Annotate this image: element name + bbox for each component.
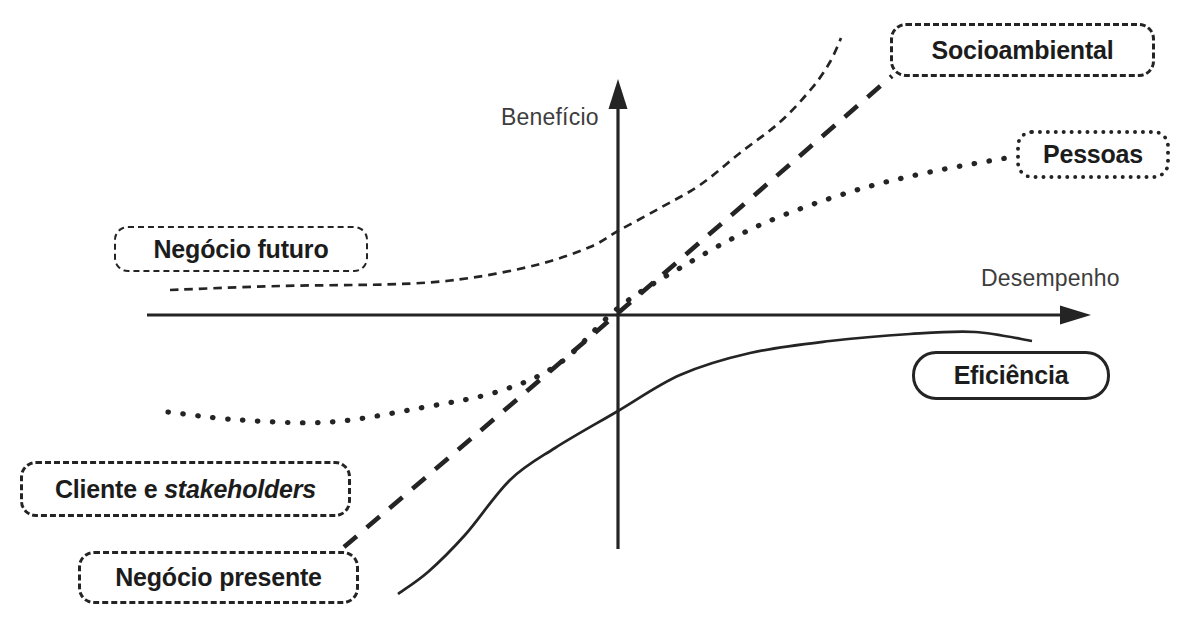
callout-pessoas: Pessoas — [1016, 130, 1170, 179]
y-axis-label: Benefício — [501, 104, 599, 131]
x-axis-label: Desempenho — [981, 265, 1120, 292]
callout-cliente-stakeholders-label: Cliente e stakeholders — [55, 475, 316, 504]
x-axis-arrow-icon — [1060, 306, 1091, 325]
plot-svg — [0, 0, 1189, 634]
callout-eficiencia-label: Eficiência — [954, 361, 1069, 390]
pessoas-curve — [168, 157, 1012, 423]
callout-socioambiental-label: Socioambiental — [932, 36, 1114, 65]
benefit-performance-diagram: Benefício Desempenho Socioambiental Pess… — [0, 0, 1189, 634]
y-axis-arrow-icon — [609, 79, 628, 109]
callout-negocio-presente: Negócio presente — [78, 551, 359, 604]
callout-cliente-stakeholders: Cliente e stakeholders — [20, 461, 351, 517]
callout-eficiencia: Eficiência — [912, 351, 1110, 400]
callout-cliente-label-italic: stakeholders — [164, 475, 316, 503]
callout-negocio-presente-label: Negócio presente — [115, 563, 322, 592]
callout-cliente-label-prefix: Cliente e — [55, 475, 164, 503]
callout-negocio-futuro-label: Negócio futuro — [154, 235, 329, 264]
callout-negocio-futuro: Negócio futuro — [114, 226, 368, 272]
callout-socioambiental: Socioambiental — [890, 23, 1155, 77]
callout-pessoas-label: Pessoas — [1043, 140, 1143, 169]
